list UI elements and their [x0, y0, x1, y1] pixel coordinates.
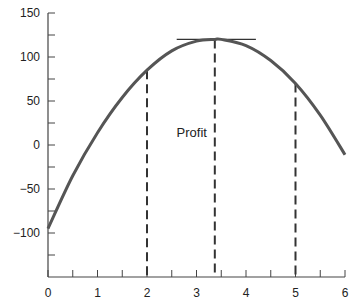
- x-tick-label: 2: [144, 286, 151, 300]
- x-tick-label: 0: [45, 286, 52, 300]
- annotations: [147, 39, 296, 277]
- axes: 150100500−50−1000123456: [13, 6, 349, 300]
- x-tick-label: 6: [342, 286, 349, 300]
- x-tick-label: 4: [243, 286, 250, 300]
- profit-label: Profit: [177, 125, 208, 140]
- profit-chart: 150100500−50−1000123456 Profit: [0, 0, 362, 306]
- y-tick-label: 0: [33, 138, 40, 152]
- y-tick-label: 50: [27, 94, 41, 108]
- y-tick-label: 150: [20, 6, 40, 20]
- y-tick-label: −100: [13, 226, 40, 240]
- y-tick-label: −50: [20, 182, 41, 196]
- x-tick-label: 3: [193, 286, 200, 300]
- y-tick-label: 100: [20, 50, 40, 64]
- x-tick-label: 5: [292, 286, 299, 300]
- x-tick-label: 1: [94, 286, 101, 300]
